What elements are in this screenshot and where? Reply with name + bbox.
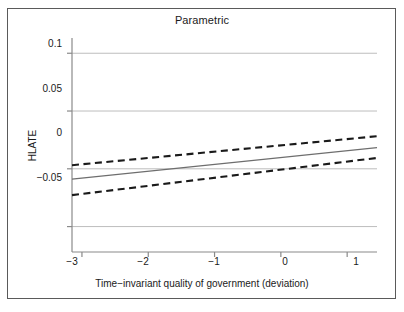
axis-lines — [72, 38, 377, 252]
gridlines — [72, 53, 377, 226]
series-line-1 — [72, 136, 377, 165]
data-series — [72, 136, 377, 195]
series-line-0 — [72, 148, 377, 179]
plot-area — [0, 0, 404, 312]
chart-root: Parametric HLATE Time−invariant quality … — [0, 0, 404, 312]
